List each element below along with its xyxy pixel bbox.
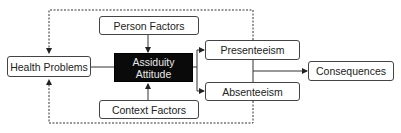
health-problems-label: Health Problems — [10, 61, 88, 73]
assiduity-attitude-label-line1: Assiduity — [132, 56, 174, 68]
assiduity-attitude-node: Assiduity Attitude — [114, 53, 193, 82]
person-factors-node: Person Factors — [99, 16, 199, 35]
assiduity-attitude-label-line2: Attitude — [136, 68, 172, 80]
health-problems-node: Health Problems — [7, 56, 91, 77]
context-factors-label: Context Factors — [112, 104, 186, 116]
consequences-label: Consequences — [316, 65, 386, 77]
consequences-node: Consequences — [308, 61, 394, 81]
presenteeism-node: Presenteeism — [205, 40, 300, 60]
absenteeism-node: Absenteeism — [205, 82, 300, 101]
person-factors-label: Person Factors — [113, 20, 184, 32]
presenteeism-label: Presenteeism — [220, 44, 284, 56]
absenteeism-label: Absenteeism — [222, 86, 283, 98]
context-factors-node: Context Factors — [99, 100, 199, 119]
